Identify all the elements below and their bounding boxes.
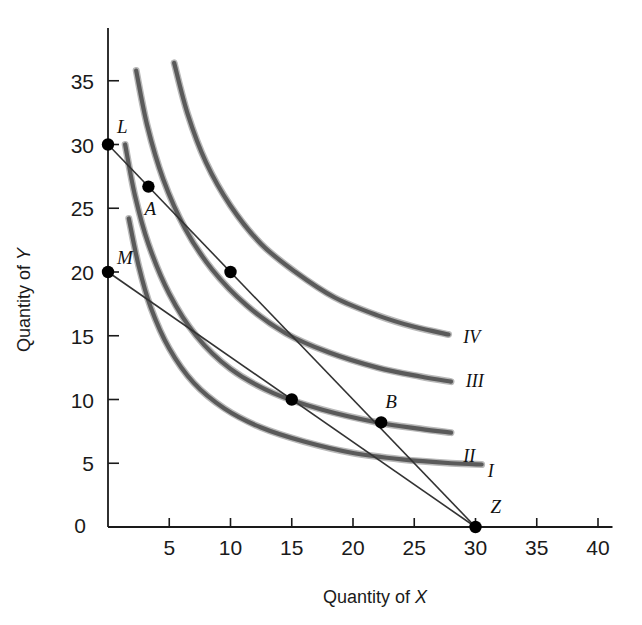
y-axis-tick-label: 10 (71, 389, 94, 412)
x-axis-tick-label: 30 (464, 536, 487, 559)
data-point (286, 393, 298, 405)
y-axis-tick-label: 30 (71, 134, 94, 157)
curve-label-IV: IV (462, 327, 482, 347)
x-axis-tick-label: 10 (219, 536, 242, 559)
point-label-Z: Z (491, 496, 502, 517)
x-axis-tick-label: 25 (403, 536, 426, 559)
data-point-Z (469, 521, 481, 533)
data-point-L (102, 138, 114, 150)
data-point-A (142, 180, 154, 192)
chart-canvas: 05101520253035405101520253035 IIIIIIIV L… (0, 0, 642, 625)
indifference-curve-IV (174, 63, 448, 335)
y-axis-title-prefix: Quantity of (14, 260, 34, 352)
indifference-curve-II (125, 145, 451, 433)
curve-label-I: I (487, 461, 495, 481)
x-axis-title-symbol: X (414, 587, 428, 607)
curve-label-II: II (462, 446, 476, 466)
x-axis-tick-label: 5 (163, 536, 175, 559)
y-axis-tick-label: 25 (71, 197, 94, 220)
x-axis-title-prefix: Quantity of (323, 587, 415, 607)
x-axis-tick-label: 35 (525, 536, 548, 559)
point-label-B: B (385, 391, 397, 412)
data-point-M (102, 266, 114, 278)
indifference-curves-layer: IIIIIIIV (125, 63, 495, 481)
data-point-B (375, 416, 387, 428)
indifference-curve-shadow (174, 63, 448, 335)
y-axis-title: Quantity of Y (14, 246, 34, 352)
y-axis-tick-label: 20 (71, 261, 94, 284)
point-label-L: L (116, 116, 128, 137)
x-axis-tick-label: 40 (586, 536, 609, 559)
curve-label-III: III (465, 371, 485, 391)
point-label-M: M (116, 247, 134, 268)
y-axis-tick-label: 5 (82, 452, 94, 475)
indifference-curve-shadow (125, 145, 451, 433)
point-label-A: A (142, 198, 156, 219)
x-axis-tick-label: 0 (74, 514, 86, 537)
axes-layer: 05101520253035405101520253035 (71, 28, 613, 559)
y-axis-title-symbol: Y (14, 246, 34, 260)
x-axis-title: Quantity of X (323, 587, 428, 607)
x-axis-tick-label: 20 (341, 536, 364, 559)
x-axis-tick-label: 15 (280, 536, 303, 559)
y-axis-tick-label: 35 (71, 70, 94, 93)
indifference-curve-figure: 05101520253035405101520253035 IIIIIIIV L… (0, 0, 642, 625)
data-point (224, 266, 236, 278)
y-axis-tick-label: 15 (71, 325, 94, 348)
